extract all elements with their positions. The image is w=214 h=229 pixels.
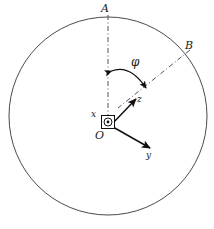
physics-diagram-figure: A B φ x O z y bbox=[0, 0, 214, 229]
label-angle-phi: φ bbox=[131, 56, 139, 68]
label-point-a: A bbox=[101, 3, 109, 14]
reference-line-ob bbox=[118, 50, 190, 108]
diagram-canvas bbox=[0, 0, 214, 229]
axis-x-out-of-page-dot bbox=[107, 121, 110, 124]
angle-arc-phi bbox=[112, 69, 147, 88]
label-origin-o: O bbox=[95, 130, 104, 141]
axis-y-arrow bbox=[113, 127, 150, 148]
label-axis-z: z bbox=[137, 95, 142, 104]
label-axis-x: x bbox=[91, 110, 96, 119]
label-point-b: B bbox=[185, 40, 193, 51]
axis-z-arrow bbox=[112, 99, 136, 124]
label-axis-y: y bbox=[146, 151, 151, 160]
